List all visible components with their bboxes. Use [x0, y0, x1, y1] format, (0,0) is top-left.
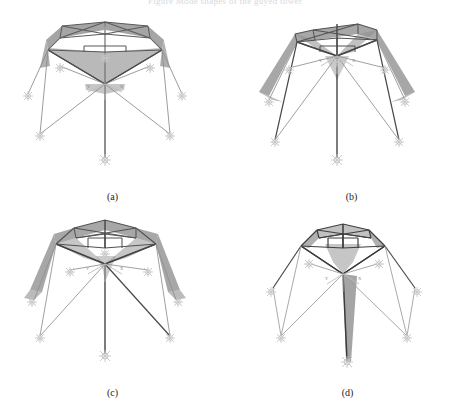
figure-panel-d: Y X (d) — [225, 204, 450, 400]
panel-caption-a: (a) — [0, 191, 225, 202]
panel-caption-d: (d) — [225, 387, 450, 398]
figure-panel-b: Y X (b) — [225, 8, 450, 204]
figure-header-strip: Figure Mode shapes of the guyed tower — [0, 0, 450, 7]
figure-panel-c: Y X (c) — [0, 204, 225, 400]
mode-shape-plot-a: Y X — [0, 8, 225, 204]
axis-triad-c — [88, 264, 122, 282]
mode-shape-plot-b: Y X — [225, 8, 450, 204]
figure-panel-a: Y X (a) — [0, 8, 225, 204]
figure-header-text: Figure Mode shapes of the guyed tower — [0, 0, 450, 6]
figure-panel-grid: Y X (a) — [0, 8, 450, 408]
axis-label-x-d: X — [358, 276, 362, 281]
mode-shape-plot-c: Y X — [0, 204, 225, 400]
mast-and-legs-a — [48, 50, 162, 158]
axis-label-y-d: Y — [325, 276, 329, 281]
panel-caption-c: (c) — [0, 387, 225, 398]
axis-label-y-b: Y — [319, 58, 323, 63]
figure-page: Figure Mode shapes of the guyed tower — [0, 0, 450, 411]
mode-shape-plot-d: Y X — [225, 204, 450, 400]
panel-caption-b: (b) — [225, 191, 450, 202]
mast-and-legs-b — [297, 24, 377, 158]
